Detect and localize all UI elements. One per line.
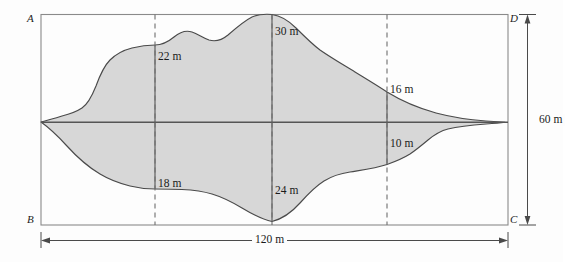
width-dimension-label: 120 m (252, 234, 287, 246)
height-dimension-line (519, 15, 536, 226)
offset-label-18: 18 m (158, 178, 181, 190)
corner-label-b: B (27, 214, 34, 225)
height-dimension-label: 60 m (536, 114, 565, 126)
corner-label-d: D (510, 13, 518, 24)
corner-label-c: C (510, 214, 517, 225)
offset-label-16: 16 m (390, 84, 413, 96)
offset-label-24: 24 m (275, 185, 298, 197)
land-shape (41, 14, 505, 221)
corner-label-a: A (27, 13, 34, 24)
offset-label-30: 30 m (275, 26, 298, 38)
offset-label-10: 10 m (390, 138, 413, 150)
offset-label-22: 22 m (158, 51, 181, 63)
